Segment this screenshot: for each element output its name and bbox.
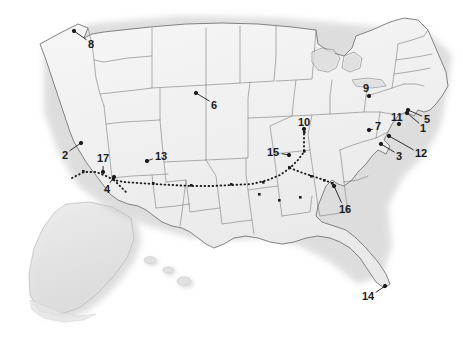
map-canvas xyxy=(0,0,463,353)
map-label-2: 2 xyxy=(62,150,68,161)
map-label-7: 7 xyxy=(375,121,381,132)
map-label-6: 6 xyxy=(211,100,217,111)
leader-tip-2 xyxy=(79,141,82,144)
leader-tip-5 xyxy=(406,108,409,111)
leader-tip-15 xyxy=(287,153,290,156)
map-label-10: 10 xyxy=(298,117,310,128)
leader-tip-7 xyxy=(367,128,370,131)
map-label-11: 11 xyxy=(391,112,403,123)
map-label-17: 17 xyxy=(97,153,109,164)
map-label-5: 5 xyxy=(424,114,430,125)
map-label-14: 14 xyxy=(362,291,374,302)
map-label-15: 15 xyxy=(267,147,279,158)
map-label-16: 16 xyxy=(339,204,351,215)
leader-tip-14 xyxy=(383,284,386,287)
map-label-13: 13 xyxy=(155,151,167,162)
leader-tip-9 xyxy=(367,94,370,97)
map-label-12: 12 xyxy=(415,148,427,159)
leader-tip-8 xyxy=(72,29,75,32)
map-label-3: 3 xyxy=(396,151,402,162)
leader-tip-16 xyxy=(332,184,335,187)
leader-tip-12 xyxy=(387,134,390,137)
map-label-9: 9 xyxy=(363,83,369,94)
leader-tip-6 xyxy=(194,91,197,94)
leader-tip-3 xyxy=(379,142,382,145)
leader-tip-17 xyxy=(101,170,104,173)
map-label-4: 4 xyxy=(104,184,110,195)
us-map-svg xyxy=(0,0,463,353)
leader-tip-4 xyxy=(112,175,115,178)
map-label-8: 8 xyxy=(88,39,94,50)
leader-tip-13 xyxy=(145,159,148,162)
